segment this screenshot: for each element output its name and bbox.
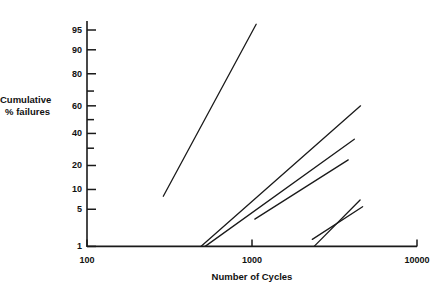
x-tick-label-100: 100 — [79, 255, 94, 265]
y-tick-label-20: 20 — [52, 160, 82, 170]
y-axis-title: Cumulative % failures — [0, 94, 50, 118]
y-tick-label-80: 80 — [52, 69, 82, 79]
x-axis-ticks — [87, 239, 417, 246]
y-axis-ticks — [87, 30, 96, 246]
data-line-line-6 — [312, 207, 362, 240]
data-line-line-4 — [255, 160, 348, 219]
x-axis-title: Number of Cycles — [212, 271, 293, 282]
x-tick-label-1000: 1000 — [242, 255, 262, 265]
chart-container: Cumulative % failures Number of Cycles 1… — [0, 0, 441, 287]
y-tick-label-1: 1 — [52, 241, 82, 251]
y-tick-label-10: 10 — [52, 184, 82, 194]
y-tick-label-60: 60 — [52, 101, 82, 111]
y-tick-label-95: 95 — [52, 25, 82, 35]
y-tick-label-40: 40 — [52, 128, 82, 138]
y-tick-label-90: 90 — [52, 45, 82, 55]
data-line-line-1 — [163, 24, 256, 196]
data-line-line-3 — [205, 139, 354, 246]
y-tick-label-5: 5 — [52, 204, 82, 214]
data-series-group — [163, 24, 362, 246]
data-line-line-2 — [201, 106, 361, 247]
x-tick-label-10000: 10000 — [404, 255, 429, 265]
